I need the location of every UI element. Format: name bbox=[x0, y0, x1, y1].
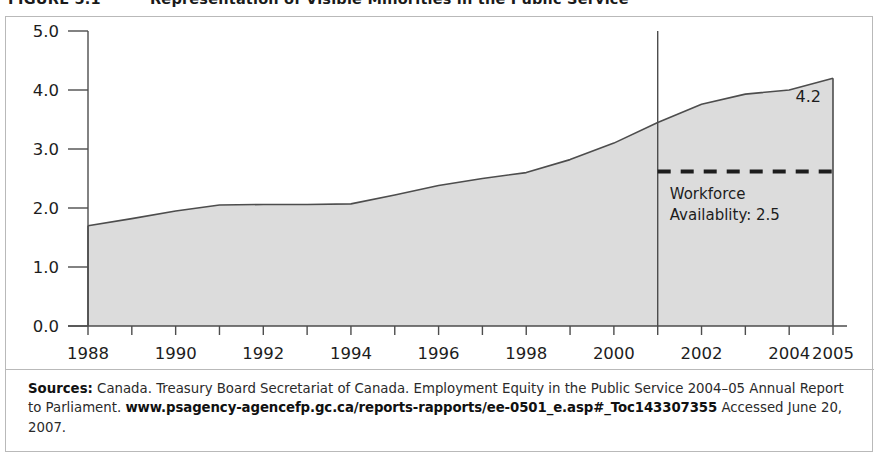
x-tick-label: 1996 bbox=[418, 344, 460, 363]
x-tick-label: 2000 bbox=[593, 344, 635, 363]
y-tick-label: 5.0 bbox=[33, 22, 59, 41]
x-tick-label: 1994 bbox=[330, 344, 372, 363]
x-tick-label: 2005 bbox=[812, 344, 854, 363]
x-axis-ticks bbox=[88, 326, 833, 335]
x-tick-label: 1990 bbox=[155, 344, 197, 363]
y-tick-label: 3.0 bbox=[33, 140, 59, 159]
source-note: Sources: Canada. Treasury Board Secretar… bbox=[6, 369, 874, 452]
y-axis-ticks bbox=[68, 31, 88, 326]
x-tick-label: 1998 bbox=[505, 344, 547, 363]
x-axis-tick-labels: 1988199019921994199619982000200220042005 bbox=[67, 344, 854, 363]
x-tick-label: 2002 bbox=[681, 344, 723, 363]
source-heading: Sources: bbox=[28, 381, 93, 396]
y-tick-label: 4.0 bbox=[33, 81, 59, 100]
x-tick-label: 1992 bbox=[242, 344, 284, 363]
figure-panel: 1988199019921994199619982000200220042005… bbox=[5, 16, 873, 452]
workforce-availability-label-line2: Availablity: 2.5 bbox=[670, 206, 780, 224]
figure-number-label: FIGURE 5.1 bbox=[8, 0, 101, 7]
x-tick-label: 1988 bbox=[67, 344, 109, 363]
area-chart: 1988199019921994199619982000200220042005… bbox=[6, 17, 874, 369]
y-tick-label: 0.0 bbox=[33, 317, 59, 336]
source-url[interactable]: www.psagency-agencefp.gc.ca/reports-rapp… bbox=[125, 400, 717, 415]
figure-title: Representation of Visible Minorities in … bbox=[150, 0, 629, 7]
data-label-4-2: 4.2 bbox=[796, 87, 821, 106]
y-axis-tick-labels: 0.01.02.03.04.05.0 bbox=[33, 22, 59, 336]
y-tick-label: 2.0 bbox=[33, 199, 59, 218]
y-tick-label: 1.0 bbox=[33, 258, 59, 277]
x-tick-label: 2004 bbox=[768, 344, 810, 363]
figure-title-bar: FIGURE 5.1 Representation of Visible Min… bbox=[0, 0, 880, 11]
chart-area: 1988199019921994199619982000200220042005… bbox=[6, 17, 874, 369]
source-text: Sources: Canada. Treasury Board Secretar… bbox=[28, 379, 852, 437]
workforce-availability-label-line1: Workforce bbox=[670, 185, 746, 203]
